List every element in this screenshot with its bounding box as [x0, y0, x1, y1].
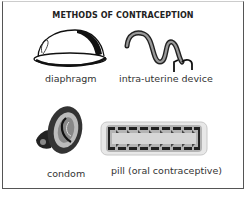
iud-icon [122, 28, 202, 76]
diaphragm-label: diaphragm [45, 73, 97, 84]
diagram-title: METHODS OF CONTRACEPTION [0, 11, 246, 20]
condom-label: condom [47, 168, 85, 179]
pill-pack-icon [100, 121, 208, 156]
pill-label: pill (oral contraceptive) [111, 165, 222, 176]
diaphragm-icon [30, 28, 110, 68]
iud-label: intra-uterine device [119, 73, 213, 84]
condom-icon [33, 100, 88, 165]
